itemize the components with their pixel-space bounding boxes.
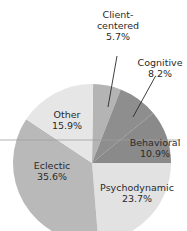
slice-label: Eclectic35.6% — [34, 160, 71, 182]
slice-percent: 15.9% — [52, 120, 82, 131]
slice-name: Other — [52, 109, 82, 120]
slice-label: Cognitive8.2% — [138, 57, 183, 79]
slice-percent: 8.2% — [138, 68, 183, 79]
slice-name: Behavioral — [130, 137, 181, 148]
slice-name: Psychodynamic — [100, 182, 174, 193]
slice-percent: 23.7% — [100, 193, 174, 204]
slice-name: centered — [97, 20, 139, 31]
slice-name: Cognitive — [138, 57, 183, 68]
slice-label: Client-centered5.7% — [97, 9, 139, 42]
slice-label: Behavioral10.9% — [130, 137, 181, 159]
slice-label: Psychodynamic23.7% — [100, 182, 174, 204]
slice-label: Other15.9% — [52, 109, 82, 131]
slice-percent: 5.7% — [97, 31, 139, 42]
slice-percent: 10.9% — [130, 148, 181, 159]
slice-percent: 35.6% — [34, 171, 71, 182]
slice-name: Eclectic — [34, 160, 71, 171]
slice-name: Client- — [97, 9, 139, 20]
